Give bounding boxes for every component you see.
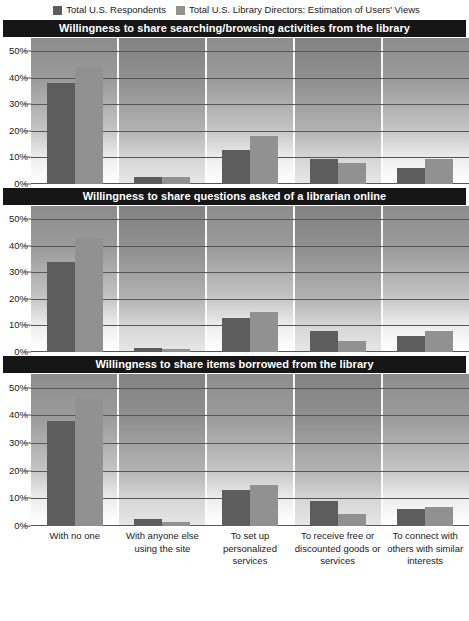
bar-group: [31, 374, 119, 526]
bar-directors[interactable]: [250, 312, 278, 352]
bar-directors[interactable]: [338, 514, 366, 526]
bar-respondents[interactable]: [310, 159, 338, 184]
y-tick-mark: [24, 157, 31, 158]
bar-group: [381, 38, 469, 184]
bar-group: [294, 374, 382, 526]
bar-group: [31, 206, 119, 352]
bar-group: [206, 206, 294, 352]
x-axis-label: With no one: [31, 528, 119, 568]
chart-panel-2: Willingness to share questions asked of …: [0, 188, 469, 352]
bar-group: [119, 206, 207, 352]
bar-group: [206, 38, 294, 184]
y-tick-mark: [24, 498, 31, 499]
bar-respondents[interactable]: [47, 262, 75, 352]
bar-group: [119, 38, 207, 184]
y-tick-mark: [24, 298, 31, 299]
chart-panel-3: Willingness to share items borrowed from…: [0, 356, 469, 526]
bar-directors[interactable]: [162, 177, 190, 184]
bar-groups: [31, 374, 469, 526]
plot-block: 50% 40% 30% 20% 10% 0%: [0, 38, 469, 184]
bar-directors[interactable]: [75, 398, 103, 527]
y-tick-mark: [24, 526, 31, 527]
x-axis-label: To set up personalized services: [206, 528, 294, 568]
bar-respondents[interactable]: [397, 509, 425, 526]
bar-respondents[interactable]: [47, 421, 75, 526]
bar-directors[interactable]: [250, 136, 278, 184]
plot-block: 50% 40% 30% 20% 10% 0%: [0, 206, 469, 352]
y-tick-mark: [24, 184, 31, 185]
square-swatch-icon: [176, 6, 185, 15]
bar-respondents[interactable]: [397, 168, 425, 184]
bar-group: [31, 38, 119, 184]
bar-group: [294, 38, 382, 184]
x-axis: With no one With anyone else using the s…: [31, 528, 469, 568]
bar-respondents[interactable]: [222, 150, 250, 185]
y-tick-mark: [24, 443, 31, 444]
bar-respondents[interactable]: [134, 177, 162, 184]
bar-group: [294, 206, 382, 352]
bar-group: [381, 206, 469, 352]
y-tick-mark: [24, 352, 31, 353]
bar-respondents[interactable]: [134, 519, 162, 526]
x-axis-gutter: [0, 528, 31, 568]
chart-panel-1: Willingness to share searching/browsing …: [0, 20, 469, 184]
y-tick-mark: [24, 325, 31, 326]
bar-directors[interactable]: [338, 163, 366, 184]
bar-directors[interactable]: [162, 522, 190, 526]
plot-area: [31, 374, 469, 526]
bar-directors[interactable]: [425, 331, 453, 352]
bar-group: [206, 374, 294, 526]
x-axis-label: To connect with others with similar inte…: [381, 528, 469, 568]
bar-respondents[interactable]: [310, 501, 338, 526]
y-tick-mark: [24, 470, 31, 471]
x-axis-label: To receive free or discounted goods or s…: [294, 528, 382, 568]
legend-item-label: Total U.S. Library Directors: Estimation…: [189, 5, 420, 15]
bar-directors[interactable]: [425, 159, 453, 184]
panel-title: Willingness to share questions asked of …: [3, 188, 466, 205]
square-swatch-icon: [53, 6, 62, 15]
y-axis: 50% 40% 30% 20% 10% 0%: [0, 374, 31, 526]
chart-legend: Total U.S. Respondents Total U.S. Librar…: [0, 0, 469, 20]
bar-respondents[interactable]: [47, 83, 75, 184]
y-tick-mark: [24, 387, 31, 388]
plot-area: [31, 206, 469, 352]
legend-item-label: Total U.S. Respondents: [66, 5, 166, 15]
bar-respondents[interactable]: [310, 331, 338, 352]
plot-area: [31, 38, 469, 184]
y-tick-mark: [24, 104, 31, 105]
y-axis: 50% 40% 30% 20% 10% 0%: [0, 206, 31, 352]
y-tick-mark: [24, 272, 31, 273]
y-tick-mark: [24, 130, 31, 131]
y-tick-mark: [24, 219, 31, 220]
bar-directors[interactable]: [250, 485, 278, 526]
bar-directors[interactable]: [75, 67, 103, 184]
legend-item-library-directors: Total U.S. Library Directors: Estimation…: [176, 5, 420, 15]
y-tick-mark: [24, 77, 31, 78]
y-tick-mark: [24, 245, 31, 246]
bar-directors[interactable]: [338, 341, 366, 352]
bar-directors[interactable]: [162, 349, 190, 352]
y-tick-mark: [24, 415, 31, 416]
y-axis: 50% 40% 30% 20% 10% 0%: [0, 38, 31, 184]
bar-group: [381, 374, 469, 526]
plot-block: 50% 40% 30% 20% 10% 0%: [0, 374, 469, 526]
bar-directors[interactable]: [425, 507, 453, 526]
panel-title: Willingness to share searching/browsing …: [3, 20, 466, 37]
bar-directors[interactable]: [75, 238, 103, 352]
bar-groups: [31, 206, 469, 352]
bar-respondents[interactable]: [222, 318, 250, 353]
x-axis-block: With no one With anyone else using the s…: [0, 528, 469, 568]
panel-title: Willingness to share items borrowed from…: [3, 356, 466, 373]
bar-respondents[interactable]: [397, 336, 425, 352]
chart-panels: Willingness to share searching/browsing …: [0, 20, 469, 526]
bar-respondents[interactable]: [222, 490, 250, 526]
bar-group: [119, 374, 207, 526]
x-axis-label: With anyone else using the site: [119, 528, 207, 568]
bar-groups: [31, 38, 469, 184]
legend-item-respondents: Total U.S. Respondents: [53, 5, 166, 15]
bar-respondents[interactable]: [134, 348, 162, 352]
y-tick-mark: [24, 51, 31, 52]
